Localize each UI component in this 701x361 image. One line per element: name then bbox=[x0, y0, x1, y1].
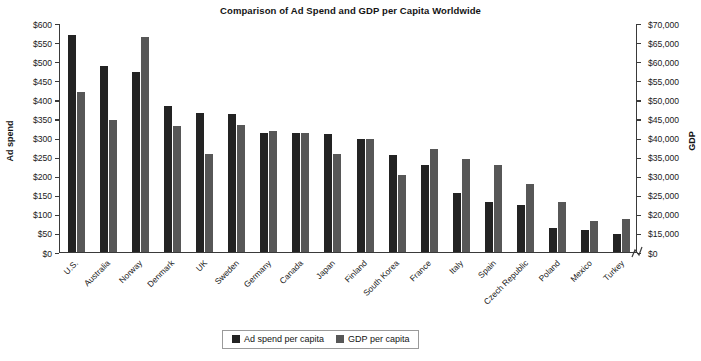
legend-item[interactable]: Ad spend per capita bbox=[232, 334, 324, 344]
x-axis-category-labels: U.S.AustraliaNorwayDenmarkUKSwedenGerman… bbox=[0, 0, 701, 361]
x-axis-tick-label: Turkey bbox=[555, 258, 626, 329]
chart-legend: Ad spend per capitaGDP per capita bbox=[222, 330, 419, 349]
legend-item[interactable]: GDP per capita bbox=[336, 334, 409, 344]
bar-chart: Comparison of Ad Spend and GDP per Capit… bbox=[0, 0, 701, 361]
axis-break-icon bbox=[629, 243, 645, 259]
legend-label: Ad spend per capita bbox=[244, 334, 324, 344]
legend-label: GDP per capita bbox=[348, 334, 409, 344]
dark-swatch bbox=[232, 335, 240, 343]
gray-swatch bbox=[336, 335, 344, 343]
